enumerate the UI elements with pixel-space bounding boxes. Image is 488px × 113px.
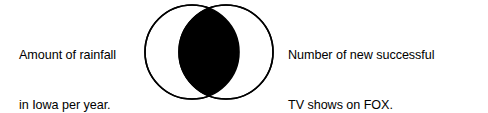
left-set-label-line-1: Amount of rainfall <box>19 47 116 64</box>
left-set-label: Amount of rainfall in Iowa per year. <box>19 14 116 112</box>
venn-diagram <box>142 2 276 104</box>
right-set-label: Number of new successful TV shows on FOX… <box>288 14 435 112</box>
right-set-label-line-1: Number of new successful <box>288 47 435 64</box>
left-set-label-line-2: in Iowa per year. <box>19 97 116 113</box>
venn-diagram-svg <box>142 2 276 104</box>
cartoon-canvas: Amount of rainfall in Iowa per year. Num… <box>0 0 488 112</box>
right-set-label-line-2: TV shows on FOX. <box>288 97 435 113</box>
